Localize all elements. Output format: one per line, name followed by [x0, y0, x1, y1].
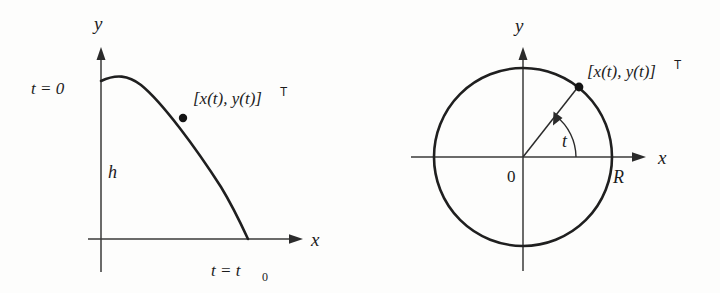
circle-point-vector-label: [x(t), y(t)] T — [587, 58, 682, 81]
start-time-label: t = 0 — [31, 79, 65, 98]
trajectory-point-vector-superscript: T — [280, 85, 288, 99]
end-time-label: t = t 0 — [211, 261, 268, 284]
y-axis-arrowhead-left — [97, 47, 106, 60]
radius-label: R — [612, 167, 624, 187]
y-axis-label-right: y — [513, 15, 524, 36]
height-label: h — [108, 162, 117, 182]
y-axis-label-left: y — [92, 13, 103, 34]
end-time-label-text: t = t — [211, 261, 242, 280]
circular-motion-panel: y x t 0 R [x(t), y(t)] T — [411, 15, 682, 271]
end-time-label-subscript: 0 — [262, 270, 268, 284]
origin-label: 0 — [507, 167, 516, 186]
circle-point-vector-superscript: T — [674, 58, 682, 72]
angle-label: t — [562, 131, 568, 151]
trajectory-point-vector-text: [x(t), y(t)] — [193, 89, 262, 108]
trajectory-point-marker — [179, 114, 187, 122]
figure-root: y x t = 0 h [x(t), y(t)] T t = t — [0, 0, 720, 293]
x-axis-arrowhead-right — [632, 152, 646, 162]
projectile-trajectory-panel: y x t = 0 h [x(t), y(t)] T t = t — [31, 13, 320, 284]
radius-line — [523, 87, 578, 157]
trajectory-point-vector-label: [x(t), y(t)] T — [193, 85, 288, 108]
figure-svg: y x t = 0 h [x(t), y(t)] T t = t — [0, 0, 720, 293]
x-axis-label-right: x — [657, 147, 667, 168]
circle-point-marker — [575, 83, 584, 92]
x-axis-arrowhead-left — [289, 234, 303, 244]
circle-point-vector-text: [x(t), y(t)] — [587, 62, 656, 81]
y-axis-arrowhead-right — [519, 47, 528, 60]
x-axis-label-left: x — [310, 229, 320, 250]
